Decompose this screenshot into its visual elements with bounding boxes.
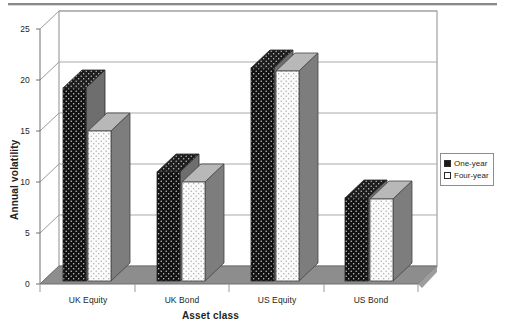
legend-label-one-year: One-year [454, 159, 487, 168]
bar-uk-bond-four-year [182, 164, 224, 281]
bar-uk-equity-four-year [88, 113, 130, 281]
bar-chart-3d: 25 20 15 10 5 0 UK Equity UK Bond US Equ… [0, 0, 505, 326]
x-tick-label-uk-bond: UK Bond [137, 295, 227, 305]
y-tick-label-20: 20 [6, 75, 30, 85]
legend-swatch-one-year-icon [444, 160, 451, 167]
legend-label-four-year: Four-year [454, 171, 489, 180]
x-tick-label-uk-equity: UK Equity [43, 295, 133, 305]
legend-swatch-four-year-icon [444, 172, 451, 179]
y-tick-label-25: 25 [6, 24, 30, 34]
bar-us-bond-four-year [370, 181, 412, 281]
x-tick-label-us-bond: US Bond [326, 295, 416, 305]
x-axis-ticks [40, 284, 418, 292]
chart-canvas [0, 0, 505, 326]
x-axis-title: Asset class [0, 310, 463, 321]
x-tick-label-us-equity: US Equity [232, 295, 322, 305]
y-tick-label-15: 15 [6, 126, 30, 136]
legend-item-four-year[interactable]: Four-year [444, 170, 489, 181]
y-tick-label-5: 5 [6, 228, 30, 238]
bar-us-equity-four-year [276, 53, 318, 281]
chart-legend: One-year Four-year [440, 153, 494, 186]
y-tick-label-0: 0 [6, 279, 30, 289]
y-axis-title: Annual volatility [9, 139, 20, 220]
legend-item-one-year[interactable]: One-year [444, 158, 489, 169]
y-axis-line [36, 29, 40, 284]
axis-perspective-links [40, 11, 59, 284]
